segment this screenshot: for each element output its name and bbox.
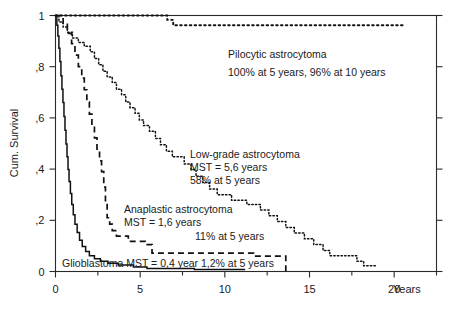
survival-chart-figure: 05101520 1,8,6,4,20 Years Cum. Survival … — [0, 0, 456, 309]
annotation-anaplastic-survival-rate: 11% at 5 years — [195, 230, 264, 242]
annotation-low-grade-line-1: Low-grade astrocytoma — [190, 148, 300, 160]
y-axis-tick-marks — [50, 16, 56, 272]
curve-pilocytic-astrocytoma — [56, 16, 403, 26]
kaplan-meier-survival-plot: 05101520 1,8,6,4,20 Years Cum. Survival … — [0, 0, 456, 309]
annotation-low-grade-line-2: MST = 5,6 years — [190, 161, 267, 173]
y-tick-label-1: ,8 — [35, 61, 44, 73]
x-tick-label-0: 0 — [52, 283, 58, 295]
annotation-low-grade: Low-grade astrocytoma MST = 5,6 years 58… — [190, 148, 300, 186]
curve-low-grade-astrocytoma — [56, 16, 376, 266]
y-axis-tick-labels: 1,8,6,4,20 — [35, 10, 44, 278]
annotation-glioblastoma-line-1: Glioblastoma MST = 0,4 year 1,2% at 5 ye… — [62, 257, 274, 269]
y-tick-label-5: 0 — [38, 266, 44, 278]
x-tick-label-2: 10 — [219, 283, 231, 295]
y-tick-label-0: 1 — [38, 10, 44, 22]
y-axis-right-tick-marks — [437, 16, 443, 272]
annotation-glioblastoma: Glioblastoma MST = 0,4 year 1,2% at 5 ye… — [62, 257, 274, 269]
x-axis-tick-marks — [56, 272, 395, 278]
annotation-low-grade-line-3: 58% at 5 years — [190, 174, 260, 186]
annotation-pilocytic: Pilocytic astrocytoma 100% at 5 years, 9… — [228, 48, 386, 78]
annotation-anaplastic-line-1: Anaplastic astrocytoma — [124, 203, 233, 215]
x-axis-title: Years — [393, 283, 421, 295]
x-tick-label-3: 15 — [303, 283, 315, 295]
x-axis-tick-labels: 05101520 — [52, 283, 400, 295]
y-tick-label-4: ,2 — [35, 214, 44, 226]
annotation-pilocytic-line-1: Pilocytic astrocytoma — [228, 48, 327, 60]
x-axis-minor-tick-marks — [98, 272, 437, 276]
annotation-pilocytic-line-2: 100% at 5 years, 96% at 10 years — [228, 66, 386, 78]
annotation-anaplastic: Anaplastic astrocytoma MST = 1,6 years 1… — [124, 203, 264, 242]
y-tick-label-3: ,4 — [35, 163, 44, 175]
x-tick-label-1: 5 — [137, 283, 143, 295]
y-axis-title: Cum. Survival — [8, 109, 20, 177]
annotation-anaplastic-line-2: MST = 1,6 years — [124, 216, 201, 228]
y-tick-label-2: ,6 — [35, 112, 44, 124]
